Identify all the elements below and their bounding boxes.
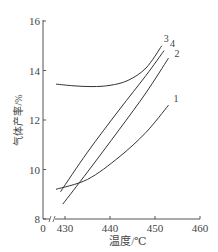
curve-label-3: 3	[164, 33, 169, 44]
chart-svg: 8101214160430440450460 温度/℃气体产率/%1234	[0, 0, 218, 252]
y-tick-label: 12	[29, 114, 40, 126]
y-tick-label: 14	[29, 65, 41, 77]
x-tick-label: 450	[147, 222, 164, 234]
curve-4	[61, 51, 165, 192]
gas-yield-chart: 8101214160430440450460 温度/℃气体产率/%1234	[0, 0, 218, 252]
axes: 8101214160430440450460	[29, 15, 209, 234]
x-tick-label-origin: 0	[40, 222, 46, 234]
x-tick-label: 440	[102, 222, 119, 234]
x-tick-label: 430	[57, 222, 74, 234]
curve-label-4: 4	[170, 38, 175, 49]
x-tick-label: 460	[192, 222, 209, 234]
curve-label-1: 1	[174, 93, 179, 104]
y-tick-label: 10	[29, 164, 41, 176]
y-tick-label: 16	[29, 15, 41, 27]
x-axis-label: 温度/℃	[109, 234, 146, 247]
curve-3	[56, 46, 162, 87]
curve-label-2: 2	[175, 48, 180, 59]
curves	[56, 46, 169, 204]
y-axis-label: 气体产率/%	[12, 94, 24, 145]
axis-break-mark	[49, 216, 55, 222]
curve-2	[63, 58, 169, 204]
curve-1	[56, 105, 169, 189]
